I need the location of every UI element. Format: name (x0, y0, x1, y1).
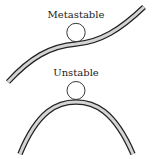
unstable-arch-outline (20, 102, 133, 154)
unstable-panel: Unstable (20, 67, 133, 154)
metastable-ball (67, 23, 85, 41)
stability-diagram: Metastable Unstable (0, 0, 152, 159)
unstable-label: Unstable (53, 67, 99, 78)
diagram-svg: Metastable Unstable (0, 0, 152, 159)
unstable-ball (67, 82, 85, 100)
metastable-label: Metastable (48, 9, 105, 20)
